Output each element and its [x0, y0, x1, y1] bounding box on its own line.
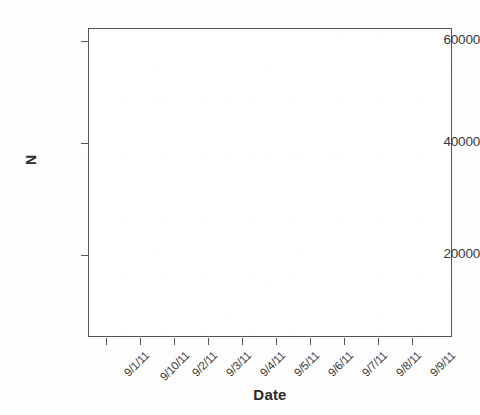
y-axis-tick-label: 60000	[408, 32, 480, 47]
x-axis-tick-label-text: 9/5/11	[292, 349, 322, 379]
x-axis-tick-mark	[242, 338, 243, 345]
x-axis-tick-mark	[140, 338, 141, 345]
x-axis-tick-label-text: 9/1/11	[122, 349, 152, 379]
x-axis-tick-label: 9/9/11	[428, 349, 458, 379]
x-axis-tick-label: 9/5/11	[292, 349, 322, 379]
x-axis-tick-label: 9/7/11	[360, 349, 390, 379]
x-axis-tick-label-text: 9/9/11	[428, 349, 458, 379]
chart-figure: 600004000020000 9/1/119/10/119/2/119/3/1…	[0, 0, 480, 415]
x-axis-tick-label: 9/6/11	[326, 349, 356, 379]
x-axis-tick-mark	[106, 338, 107, 345]
x-axis-tick-label-text: 9/2/11	[190, 349, 220, 379]
x-axis-tick-label-text: 9/8/11	[394, 349, 424, 379]
x-axis-tick-label: 9/1/11	[122, 349, 152, 379]
x-axis-tick-mark	[276, 338, 277, 345]
x-axis-tick-mark	[208, 338, 209, 345]
y-axis-tick-mark	[81, 41, 88, 42]
x-axis-title: Date	[88, 386, 452, 403]
y-axis-tick-mark	[81, 143, 88, 144]
plot-area	[88, 28, 452, 337]
x-axis-tick-mark	[344, 338, 345, 345]
y-axis-tick-label: 20000	[408, 246, 480, 261]
x-axis-tick-mark	[378, 338, 379, 345]
x-axis-tick-label: 9/8/11	[394, 349, 424, 379]
x-axis-tick-label-text: 9/7/11	[360, 349, 390, 379]
x-axis-tick-label-text: 9/4/11	[258, 349, 288, 379]
y-axis-tick-mark	[81, 255, 88, 256]
x-axis-tick-mark	[412, 338, 413, 345]
y-axis-title: N	[23, 146, 39, 174]
x-axis-tick-label-text: 9/6/11	[326, 349, 356, 379]
x-axis-tick-mark	[310, 338, 311, 345]
x-axis-tick-label-text: 9/3/11	[224, 349, 254, 379]
x-axis-tick-label: 9/2/11	[190, 349, 220, 379]
x-axis-tick-label: 9/3/11	[224, 349, 254, 379]
x-axis-tick-label: 9/4/11	[258, 349, 288, 379]
y-axis-tick-label: 40000	[408, 134, 480, 149]
x-axis-tick-label: 9/10/11	[158, 349, 192, 383]
x-axis-tick-mark	[174, 338, 175, 345]
x-axis-tick-label-text: 9/10/11	[158, 349, 192, 383]
